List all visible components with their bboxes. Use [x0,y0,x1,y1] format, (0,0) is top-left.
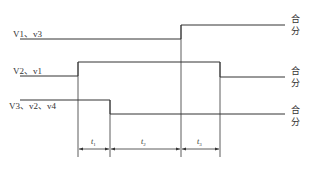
signal-v3-v2-v4: V3、v2、v4 [9,100,285,114]
signal-v2-v1: V2、v1 [13,62,285,77]
state-labels: 合 分 合 分 合 分 [291,13,300,127]
interval-label-t2: t2 [141,137,146,147]
state-label-close-1: 合 [291,13,300,24]
state-label-open-2: 分 [291,78,300,88]
interval-label-t3: t3 [197,137,202,147]
state-label-close-3: 合 [291,104,300,115]
state-label-close-2: 合 [291,65,300,76]
interval-labels: t1 t2 t3 [91,137,202,147]
signal-label-v3-v2-v4: V3、v2、v4 [9,101,56,111]
signal-label-v1-v3: V1、v3 [13,29,42,39]
interval-label-t1: t1 [91,137,96,147]
signal-v1-v3: V1、v3 [13,25,285,39]
signal-label-v2-v1: V2、v1 [13,66,42,76]
timing-diagram: V1、v3 V2、v1 V3、v2、v4 合 分 合 分 合 分 t1 t2 t… [0,0,310,171]
state-label-open-1: 分 [291,26,300,36]
state-label-open-3: 分 [291,117,300,127]
